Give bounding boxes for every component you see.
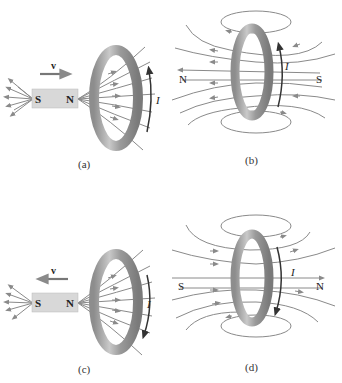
pole-s-b: S xyxy=(316,73,322,85)
pole-n-d: N xyxy=(316,280,324,292)
velocity-label-c: v xyxy=(51,265,56,276)
current-arrow-down-d xyxy=(276,247,281,312)
current-label-d: I xyxy=(290,266,296,278)
caption-d: (d) xyxy=(245,361,258,373)
current-label-c: I xyxy=(146,298,152,310)
panel-a: S N v I xyxy=(6,47,161,150)
pole-s-a: S xyxy=(35,93,41,105)
pole-n-b: N xyxy=(179,73,187,85)
pole-s-c: S xyxy=(35,297,41,309)
pole-n-a: N xyxy=(66,93,74,105)
current-label-b: I xyxy=(284,60,290,72)
caption-a: (a) xyxy=(78,158,90,170)
caption-c: (c) xyxy=(78,363,90,375)
pole-n-c: N xyxy=(66,297,74,309)
pole-s-d: S xyxy=(178,280,184,292)
panel-c: S N v I xyxy=(6,250,155,355)
induction-diagram: S N v I N S I xyxy=(0,0,342,383)
panel-b: N S I xyxy=(172,11,335,133)
panel-d: S N I xyxy=(172,215,335,337)
current-label-a: I xyxy=(155,94,161,106)
velocity-label-a: v xyxy=(51,60,56,71)
caption-b: (b) xyxy=(245,154,258,166)
